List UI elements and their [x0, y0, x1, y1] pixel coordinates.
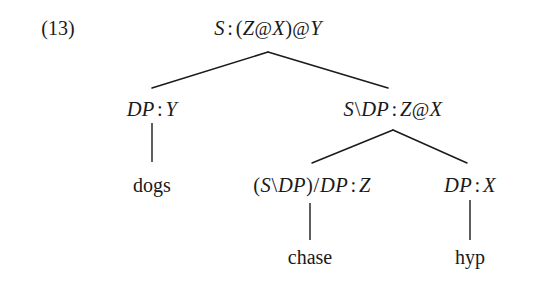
- root-sem-y: Y: [310, 17, 322, 39]
- root-at-2: @: [292, 18, 310, 39]
- predicate-category-dp: DP: [361, 98, 389, 120]
- verb-semantics: Z: [359, 174, 371, 196]
- root-category: S: [214, 17, 225, 39]
- root-at-1: @: [255, 18, 273, 39]
- ccg-derivation-figure: (13) S:(Z@X)@Y DP:Y S\DP:Z@X (S\DP)/DP:Z…: [0, 0, 540, 296]
- object-category: DP: [444, 174, 472, 196]
- predicate-category-s: S: [344, 98, 355, 120]
- edge-predicate-to-verb: [312, 130, 393, 163]
- predicate-colon: :: [389, 98, 400, 120]
- verb-colon: :: [348, 174, 359, 196]
- predicate-at: @: [412, 99, 430, 120]
- verb-cat-dp-inner: DP: [278, 174, 306, 196]
- predicate-sem-x: X: [430, 98, 443, 120]
- tree-node-predicate: S\DP:Z@X: [344, 99, 443, 120]
- root-colon: :: [225, 17, 236, 39]
- root-sem-z: Z: [243, 17, 255, 39]
- tree-terminal-dogs: dogs: [133, 175, 171, 195]
- verb-cat-s: S: [260, 174, 271, 196]
- edge-predicate-to-object: [393, 130, 467, 163]
- root-lparen: (: [236, 17, 243, 39]
- tree-node-object: DP:X: [444, 175, 496, 196]
- example-number: (13): [41, 18, 74, 38]
- edge-root-to-subject: [152, 52, 268, 88]
- subject-semantics: Y: [166, 98, 178, 120]
- predicate-sem-z: Z: [400, 98, 412, 120]
- tree-terminal-chase: chase: [288, 247, 332, 267]
- tree-terminal-hyp: hyp: [455, 247, 485, 267]
- backslash-icon: \: [354, 98, 361, 120]
- tree-node-subject: DP:Y: [127, 99, 178, 120]
- root-sem-x: X: [272, 17, 285, 39]
- verb-rparen: ): [306, 174, 313, 196]
- forwardslash-icon: /: [313, 174, 320, 196]
- tree-node-root: S:(Z@X)@Y: [214, 18, 322, 39]
- tree-node-verb: (S\DP)/DP:Z: [253, 175, 370, 196]
- subject-colon: :: [155, 98, 166, 120]
- subject-category: DP: [127, 98, 155, 120]
- object-colon: :: [472, 174, 483, 196]
- backslash-icon: \: [271, 174, 278, 196]
- verb-cat-dp-outer: DP: [320, 174, 348, 196]
- object-semantics: X: [483, 174, 496, 196]
- edge-root-to-predicate: [268, 52, 388, 88]
